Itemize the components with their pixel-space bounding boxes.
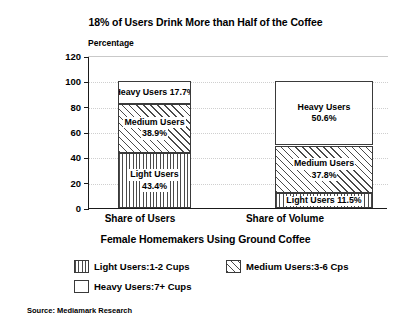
segment-label: Light Users 11.5% <box>285 196 362 206</box>
chart-subtitle: Female Homemakers Using Ground Coffee <box>0 233 411 245</box>
coffee-consumption-chart: 18% of Users Drink More than Half of the… <box>0 0 411 334</box>
y-tick-mark <box>84 107 89 108</box>
category-label-share-of-users: Share of Users <box>80 213 200 224</box>
segment-value: 50.6% <box>312 113 337 125</box>
segment-medium-users[interactable]: Medium Users 38.9% <box>118 104 191 153</box>
bar-share-of-users[interactable]: Heavy Users 17.7% Medium Users 38.9% Lig… <box>118 81 191 208</box>
chart-legend: Light Users:1-2 Cups Medium Users:3-6 Cp… <box>74 256 394 296</box>
y-tick-mark <box>84 133 89 134</box>
bar-share-of-volume[interactable]: Heavy Users 50.6% Medium Users 37.8% Lig… <box>275 81 373 208</box>
segment-medium-users[interactable]: Medium Users 37.8% <box>275 146 373 194</box>
legend-label: Light Users:1-2 Cups <box>94 261 190 272</box>
category-label-share-of-volume: Share of Volume <box>215 213 355 224</box>
legend-item-heavy-users[interactable]: Heavy Users:7+ Cups <box>74 280 226 293</box>
segment-label: Light Users <box>129 169 179 181</box>
y-tick-label: 60 <box>70 127 81 138</box>
segment-heavy-users[interactable]: Heavy Users 50.6% <box>275 81 373 145</box>
legend-label: Heavy Users:7+ Cups <box>94 281 191 292</box>
y-tick-mark <box>84 57 89 58</box>
segment-label: Heavy Users 17.7% <box>118 88 191 98</box>
segment-value: 37.8% <box>311 170 338 182</box>
y-tick-label: 100 <box>65 76 81 87</box>
segment-value: 38.9% <box>141 128 168 140</box>
source-note: Source: Mediamark Research <box>27 306 132 315</box>
y-tick-mark <box>84 209 89 210</box>
plot-area: 120 100 80 60 40 20 0 <box>88 57 387 209</box>
legend-swatch-light-icon <box>74 260 89 273</box>
segment-light-users[interactable]: Light Users 11.5% <box>275 193 373 208</box>
y-axis-unit-label: Percentage <box>88 38 134 48</box>
segment-label: Medium Users <box>123 117 185 129</box>
y-tick-label: 80 <box>70 102 81 113</box>
segment-label: Medium Users <box>293 158 355 170</box>
segment-light-users[interactable]: Light Users 43.4% <box>118 153 191 208</box>
segment-heavy-users[interactable]: Heavy Users 17.7% <box>118 81 191 103</box>
legend-row-1: Light Users:1-2 Cups Medium Users:3-6 Cp… <box>74 256 394 276</box>
y-tick-label: 40 <box>70 152 81 163</box>
legend-swatch-medium-icon <box>226 260 241 273</box>
legend-item-light-users[interactable]: Light Users:1-2 Cups <box>74 260 226 273</box>
y-tick-label: 120 <box>65 51 81 62</box>
legend-swatch-heavy-icon <box>74 280 89 293</box>
chart-title: 18% of Users Drink More than Half of the… <box>0 16 411 28</box>
legend-label: Medium Users:3-6 Cps <box>246 261 348 272</box>
segment-label: Heavy Users <box>298 102 351 114</box>
legend-item-medium-users[interactable]: Medium Users:3-6 Cps <box>226 260 348 273</box>
y-tick-mark <box>84 158 89 159</box>
y-tick-label: 20 <box>70 178 81 189</box>
legend-row-2: Heavy Users:7+ Cups <box>74 276 394 296</box>
y-tick-mark <box>84 82 89 83</box>
y-tick-mark <box>84 183 89 184</box>
segment-value: 43.4% <box>141 181 168 193</box>
